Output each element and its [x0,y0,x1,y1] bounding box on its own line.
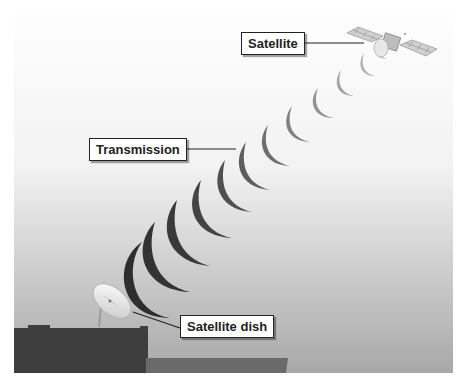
satellite-label: Satellite [241,32,305,55]
satellite-dish-label: Satellite dish [180,315,274,338]
transmission-label: Transmission [89,138,187,161]
